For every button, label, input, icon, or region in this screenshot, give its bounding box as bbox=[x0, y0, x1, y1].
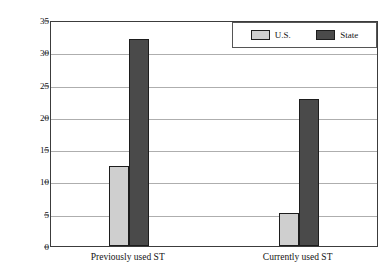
x-category-label: Currently used ST bbox=[263, 252, 333, 262]
y-tick-mark bbox=[44, 117, 49, 118]
bar-chart: Percent 05101520253035 Previously used S… bbox=[0, 0, 391, 277]
y-tick-label: 0 bbox=[5, 242, 49, 252]
y-tick-mark bbox=[44, 182, 49, 183]
gridline bbox=[51, 183, 377, 184]
gridline bbox=[51, 87, 377, 88]
legend-label: State bbox=[340, 30, 358, 40]
bar-us-1 bbox=[279, 213, 299, 246]
legend-swatch-icon bbox=[251, 30, 270, 40]
gridline bbox=[51, 216, 377, 217]
y-tick-mark bbox=[44, 214, 49, 215]
y-tick-label: 15 bbox=[5, 145, 49, 155]
bar-state-0 bbox=[129, 39, 149, 246]
legend-label: U.S. bbox=[275, 30, 291, 40]
y-tick-mark bbox=[44, 150, 49, 151]
y-tick-label: 25 bbox=[5, 81, 49, 91]
legend-item: State bbox=[316, 30, 358, 40]
y-tick-label: 30 bbox=[5, 48, 49, 58]
legend-swatch-icon bbox=[316, 30, 335, 40]
legend-item: U.S. bbox=[251, 30, 291, 40]
bar-state-1 bbox=[299, 99, 319, 246]
y-tick-mark bbox=[44, 21, 49, 22]
y-tick-mark bbox=[44, 53, 49, 54]
x-category-label: Previously used ST bbox=[91, 252, 165, 262]
y-tick-mark bbox=[44, 85, 49, 86]
y-tick-label: 35 bbox=[5, 16, 49, 26]
y-tick-label: 10 bbox=[5, 177, 49, 187]
gridline bbox=[51, 54, 377, 55]
plot-area bbox=[50, 21, 378, 247]
chart-legend: U.S.State bbox=[232, 22, 377, 48]
gridline bbox=[51, 119, 377, 120]
y-tick-mark bbox=[44, 247, 49, 248]
y-tick-label: 20 bbox=[5, 113, 49, 123]
bar-us-0 bbox=[109, 166, 129, 246]
gridline bbox=[51, 151, 377, 152]
y-axis-tick-labels: 05101520253035 bbox=[0, 0, 49, 277]
y-tick-label: 5 bbox=[5, 210, 49, 220]
